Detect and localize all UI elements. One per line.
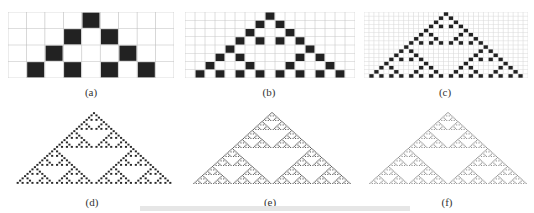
figure-caption-illegible [140,206,410,211]
panel-d [14,112,174,184]
panel-b [185,12,355,78]
panel-e [192,112,352,184]
cellular-automaton-grid-b [185,12,355,78]
panel-label-a: (a) [71,86,111,98]
panel-label-c: (c) [425,86,465,98]
cellular-automaton-grid-e [192,112,352,184]
panel-label-b: (b) [249,86,289,98]
panel-c [364,12,528,78]
cellular-automaton-grid-d [14,112,174,184]
cellular-automaton-grid-a [8,12,174,78]
panel-f [368,112,528,184]
panel-a [8,12,174,78]
panel-label-d: (d) [72,196,112,208]
panel-label-f: (f) [427,196,467,208]
cellular-automaton-grid-f [368,112,528,184]
cellular-automaton-grid-c [364,12,528,78]
